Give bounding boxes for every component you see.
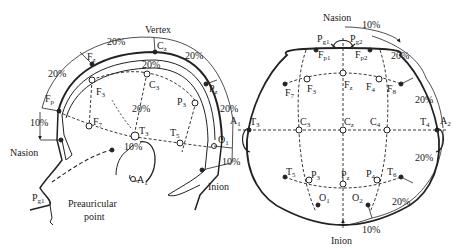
neck-line xyxy=(50,205,53,225)
svg-text:O1: O1 xyxy=(218,134,229,147)
svg-text:A2: A2 xyxy=(440,115,451,128)
eeg-10-20-diagram: Vertex Nasion Inion Preauricular point 2… xyxy=(0,0,453,250)
svg-text:Fp: Fp xyxy=(45,93,55,106)
pct-top-2: 20% xyxy=(391,50,409,61)
electrode-T4 xyxy=(435,128,439,132)
electrode-Pz xyxy=(340,181,346,187)
pct-4: 20% xyxy=(48,68,66,79)
label-nasion-top: Nasion xyxy=(323,12,351,23)
svg-text:F3: F3 xyxy=(307,83,317,96)
svg-text:C3: C3 xyxy=(149,79,160,92)
svg-text:Cz: Cz xyxy=(157,40,167,53)
pct-top-5: 20% xyxy=(392,196,410,207)
svg-text:F4: F4 xyxy=(366,81,376,94)
svg-text:Pz: Pz xyxy=(341,169,350,182)
svg-text:Cz: Cz xyxy=(344,116,354,129)
electrode-T3 xyxy=(131,132,139,140)
svg-text:F8: F8 xyxy=(387,83,397,96)
svg-text:O2: O2 xyxy=(352,192,363,205)
f-column-dashed xyxy=(89,80,92,128)
electrode-F4 xyxy=(376,76,382,82)
svg-text:F3: F3 xyxy=(96,86,106,99)
svg-text:T3: T3 xyxy=(250,116,260,129)
svg-text:T5: T5 xyxy=(286,166,296,179)
pct-top-6: 10% xyxy=(362,224,380,235)
svg-text:P3: P3 xyxy=(177,96,187,109)
label-nasion: Nasion xyxy=(10,147,38,158)
electrode-F3 xyxy=(304,76,310,82)
pct-top-3: 20% xyxy=(415,94,433,105)
preauricular-dot xyxy=(110,148,114,152)
electrode-F7 xyxy=(86,123,92,129)
svg-text:P4: P4 xyxy=(366,168,376,181)
electrode-Cz xyxy=(340,127,346,133)
electrode-C3 xyxy=(144,71,150,77)
chin-line xyxy=(30,205,50,210)
electrode-O1 xyxy=(316,203,320,207)
tick-fp xyxy=(42,108,59,111)
electrode-C3 xyxy=(296,127,302,133)
electrode-F7 xyxy=(283,82,287,86)
pct-5: 20% xyxy=(132,103,150,114)
label-preauricular-2: point xyxy=(84,211,105,222)
svg-text:O1: O1 xyxy=(319,192,330,205)
preauricular-dotted xyxy=(112,100,131,128)
svg-text:A1: A1 xyxy=(137,174,148,187)
svg-text:Fz: Fz xyxy=(344,79,353,92)
svg-text:T6: T6 xyxy=(387,166,397,179)
electrode-T5 xyxy=(177,140,183,146)
svg-text:Pg1: Pg1 xyxy=(32,192,45,205)
pct-top-4: 20% xyxy=(415,152,433,163)
electrode-A1 xyxy=(131,177,136,182)
pct-3: 20% xyxy=(142,59,160,70)
svg-text:F7: F7 xyxy=(93,116,103,129)
electrode-P3 xyxy=(192,100,198,106)
side-view xyxy=(30,37,233,225)
svg-text:T4: T4 xyxy=(420,116,430,129)
label-preauricular-1: Preauricular xyxy=(68,198,118,209)
pct-6: 10% xyxy=(30,117,48,128)
svg-text:C3: C3 xyxy=(300,116,311,129)
pct-2: 20% xyxy=(185,50,203,61)
pct-1: 20% xyxy=(107,36,125,47)
label-inion: Inion xyxy=(208,181,229,192)
electrode-F3 xyxy=(89,77,95,83)
pct-top-1: 10% xyxy=(362,19,380,30)
svg-text:C4: C4 xyxy=(370,116,381,129)
pct-9: 10% xyxy=(222,156,240,167)
electrode-T3 xyxy=(247,128,251,132)
svg-text:T3: T3 xyxy=(139,125,149,138)
svg-text:Pg1: Pg1 xyxy=(317,33,330,46)
svg-text:Fp2: Fp2 xyxy=(355,49,368,62)
label-inion-top: Inion xyxy=(331,235,352,246)
pct-8: 10% xyxy=(124,141,142,152)
top-view xyxy=(238,27,448,228)
svg-text:T5: T5 xyxy=(170,127,180,140)
electrode-Fz xyxy=(340,70,346,76)
electrode-C4 xyxy=(384,127,390,133)
svg-text:Fp1: Fp1 xyxy=(318,49,331,62)
pct-7: 20% xyxy=(220,103,238,114)
label-vertex: Vertex xyxy=(145,24,171,35)
brow-profile xyxy=(62,115,72,160)
svg-text:A1: A1 xyxy=(230,115,241,128)
svg-text:F7: F7 xyxy=(285,87,295,100)
electrode-Fp2 xyxy=(368,48,372,52)
